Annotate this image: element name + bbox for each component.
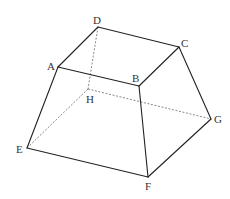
edge-bc (139, 47, 179, 86)
edge-ae (27, 67, 58, 148)
vertex-label-e: E (16, 143, 23, 155)
vertex-label-g: G (214, 113, 222, 125)
edge-fg (148, 119, 211, 177)
hidden-edge-he (27, 89, 88, 148)
vertex-label-h: H (86, 93, 94, 105)
edge-da (58, 27, 98, 67)
vertex-labels: A B C D E F G H (16, 14, 222, 192)
hidden-edge-hg (88, 89, 211, 119)
vertex-label-b: B (132, 72, 139, 84)
edge-ef (27, 148, 148, 177)
vertex-label-c: C (181, 37, 188, 49)
vertex-label-f: F (145, 180, 151, 192)
vertex-label-d: D (93, 14, 101, 26)
edge-bf (139, 86, 148, 177)
hidden-edge-dh (88, 27, 98, 89)
frustum-diagram: A B C D E F G H (0, 0, 230, 199)
vertex-label-a: A (47, 60, 55, 72)
edge-cg (179, 47, 211, 119)
edge-ab (58, 67, 139, 86)
edge-cd (98, 27, 179, 47)
visible-edges (27, 27, 211, 177)
